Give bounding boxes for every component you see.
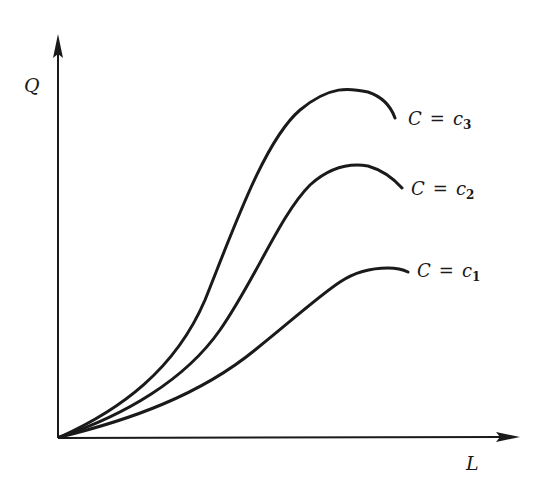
diagram-canvas: Q L C=c3 C=c2 C=c1 bbox=[0, 0, 544, 498]
y-axis bbox=[53, 34, 63, 438]
curve-c3 bbox=[60, 89, 395, 437]
x-axis bbox=[58, 432, 520, 442]
curve-c1 bbox=[60, 268, 408, 437]
curve-c2 bbox=[60, 165, 402, 437]
y-axis-label: Q bbox=[24, 74, 40, 96]
curve-label-c3: C=c3 bbox=[408, 108, 471, 132]
curve-label-c2: C=c2 bbox=[411, 178, 474, 202]
curve-label-c1: C=c1 bbox=[417, 260, 480, 284]
x-axis-label: L bbox=[465, 452, 479, 474]
